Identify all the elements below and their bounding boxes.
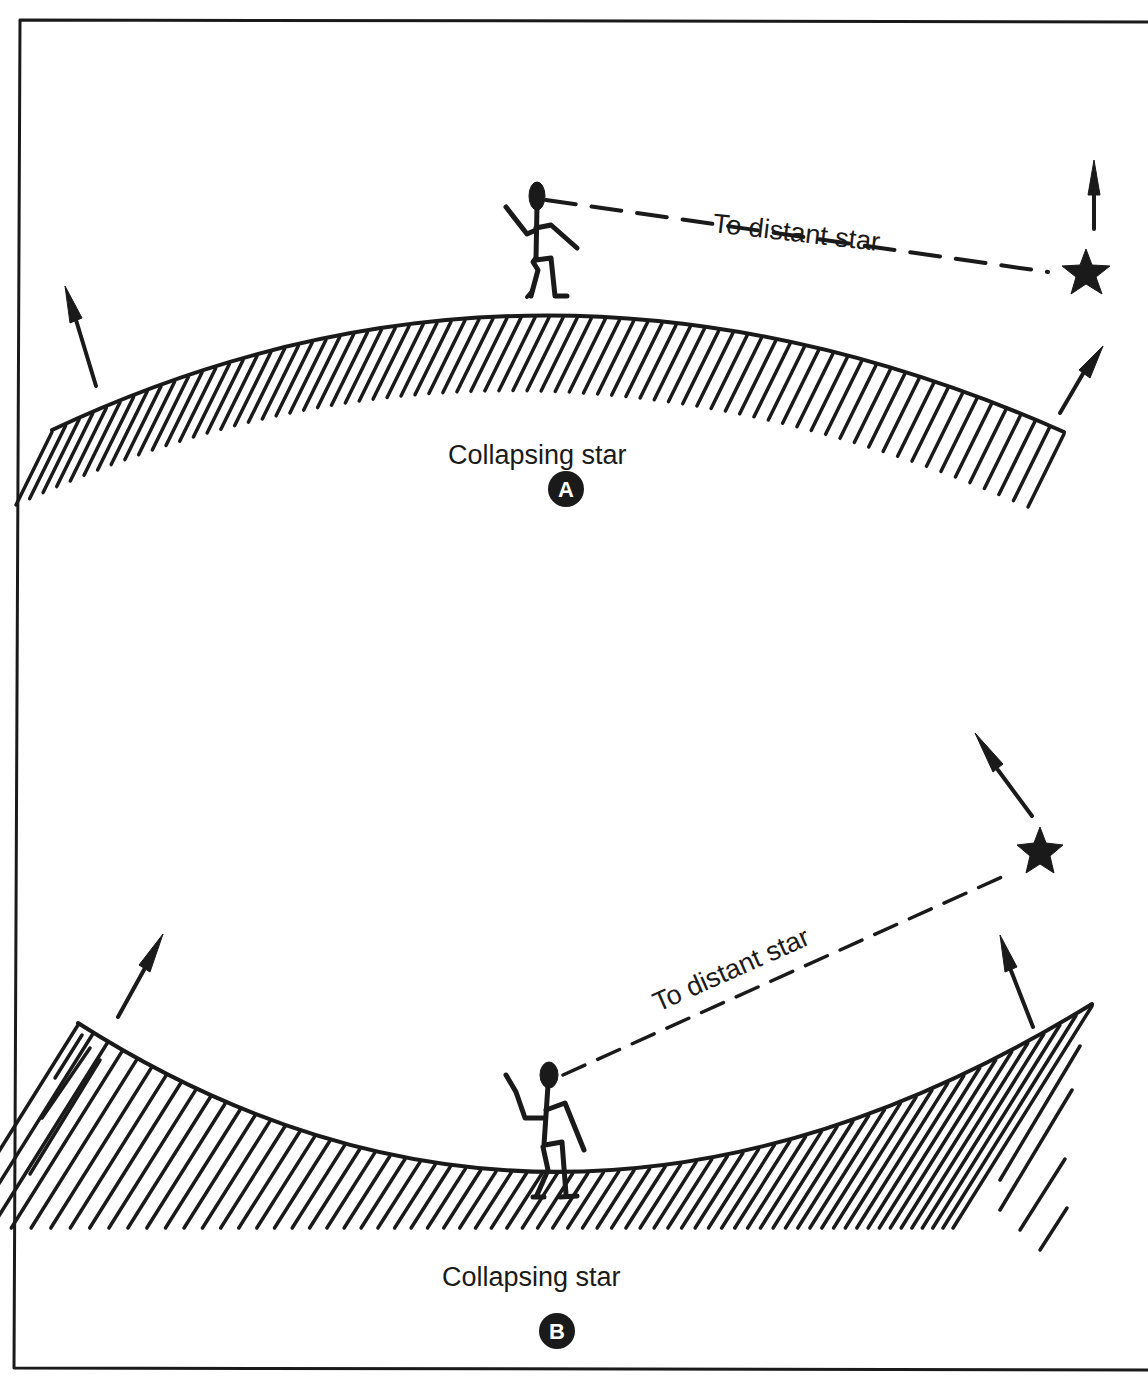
star-motion-arrow-a	[1088, 160, 1100, 229]
panel-b: To distant star Collapsing star B	[0, 733, 1092, 1349]
outward-arrow-left-a	[65, 286, 96, 386]
outward-arrow-right-a	[1060, 346, 1103, 413]
line-of-sight-b	[563, 872, 1013, 1075]
panel-badge-a: A	[548, 471, 584, 507]
outward-arrow-left-b	[118, 934, 163, 1017]
star-motion-arrow-b	[975, 733, 1032, 816]
line-label-a: To distant star	[711, 208, 881, 257]
distant-star-icon-b	[1017, 827, 1063, 873]
line-label-b: To distant star	[648, 922, 814, 1018]
surface-label-a: Collapsing star	[448, 440, 627, 470]
panel-a: To distant star Collapsing star A	[16, 160, 1110, 507]
collapsing-star-diagram: To distant star Collapsing star A	[0, 0, 1148, 1381]
stick-figure-observer-a	[506, 182, 577, 297]
panel-badge-b: B	[539, 1313, 575, 1349]
svg-text:A: A	[558, 477, 574, 502]
svg-text:B: B	[549, 1319, 565, 1344]
outward-arrow-right-b	[1000, 935, 1033, 1027]
hatching-a	[16, 318, 1064, 508]
distant-star-icon-a	[1062, 249, 1110, 294]
surface-label-b: Collapsing star	[442, 1262, 621, 1292]
